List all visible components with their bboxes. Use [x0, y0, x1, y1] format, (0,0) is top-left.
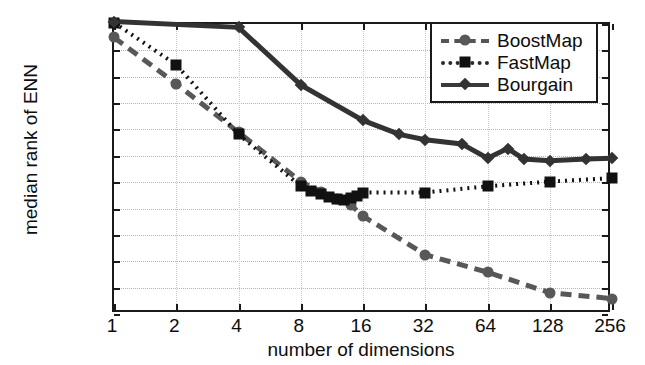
data-point-fastmap — [295, 181, 306, 192]
legend-item-fastmap[interactable]: FastMap — [439, 51, 589, 73]
x-tick-label: 256 — [594, 316, 626, 335]
x-axis-title: number of dimensions — [112, 340, 610, 359]
x-tick-mark — [612, 304, 614, 310]
legend-label-boostmap: BoostMap — [497, 31, 583, 50]
x-tick-label: 64 — [475, 316, 496, 335]
data-point-boostmap — [482, 267, 493, 278]
data-point-fastmap — [171, 59, 182, 70]
legend-item-bourgain[interactable]: Bourgain — [439, 73, 589, 95]
x-tick-label: 8 — [293, 316, 304, 335]
data-point-boostmap — [171, 78, 182, 89]
legend-label-fastmap: FastMap — [497, 53, 571, 72]
x-tick-label: 16 — [350, 316, 371, 335]
legend-label-bourgain: Bourgain — [497, 75, 573, 94]
data-point-fastmap — [482, 181, 493, 192]
data-point-fastmap — [420, 187, 431, 198]
x-tick-label: 2 — [169, 316, 180, 335]
x-tick-label: 32 — [413, 316, 434, 335]
data-point-boostmap — [544, 287, 555, 298]
data-point-boostmap — [420, 249, 431, 260]
chart-legend: BoostMap FastMap Bourgain — [430, 22, 598, 103]
data-point-fastmap — [607, 173, 618, 184]
data-point-boostmap — [358, 211, 369, 222]
x-tick-label: 4 — [231, 316, 242, 335]
legend-swatch-fastmap — [439, 52, 491, 72]
x-tick-label: 1 — [107, 316, 118, 335]
data-point-fastmap — [233, 129, 244, 140]
x-tick-mark — [612, 24, 614, 30]
chart-figure: 8163264128256512102420484096819216384 12… — [0, 0, 645, 365]
data-point-fastmap — [358, 187, 369, 198]
data-point-fastmap — [544, 176, 555, 187]
y-axis-title: median rank of ENN — [21, 0, 40, 300]
legend-swatch-bourgain — [439, 74, 491, 94]
x-tick-label: 128 — [532, 316, 564, 335]
data-point-boostmap — [607, 293, 618, 304]
legend-item-boostmap[interactable]: BoostMap — [439, 29, 589, 51]
data-point-boostmap — [109, 32, 120, 43]
legend-swatch-boostmap — [439, 30, 491, 50]
